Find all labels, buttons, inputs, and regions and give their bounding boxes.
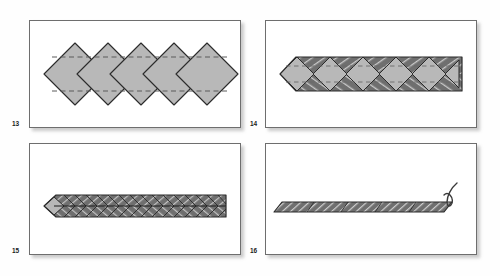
- diamond-row: [44, 43, 238, 105]
- strip-hatching: [266, 198, 476, 218]
- diamond-strip-edges-folded: [266, 21, 476, 127]
- flat-hatched-strip: [266, 144, 476, 254]
- panel-number-14: 14: [250, 121, 257, 128]
- panel-16: [265, 143, 477, 255]
- chevron-strip-folded: [30, 144, 240, 254]
- panel-13: [29, 20, 241, 128]
- panel-number-15: 15: [12, 248, 19, 255]
- panel-14: [265, 20, 477, 128]
- panel-number-13: 13: [12, 121, 19, 128]
- diagram-sheet: 13: [0, 0, 500, 276]
- panel-15: [29, 143, 241, 255]
- panel-number-16: 16: [250, 248, 257, 255]
- diamond-strip-unfolded: [30, 21, 240, 127]
